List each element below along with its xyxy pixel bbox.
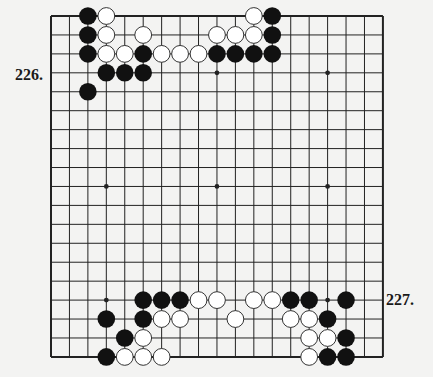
star-point [215, 70, 220, 75]
black-stone [337, 329, 355, 347]
white-stone [116, 45, 133, 62]
white-stone [153, 311, 170, 328]
white-stone [227, 27, 244, 44]
black-stone [171, 291, 189, 309]
white-stone [319, 330, 336, 347]
star-point [325, 298, 330, 303]
black-stone [300, 291, 318, 309]
star-point [215, 184, 220, 189]
white-stone [135, 349, 152, 366]
white-stone [301, 330, 318, 347]
go-board [0, 0, 433, 377]
black-stone [79, 83, 97, 101]
white-stone [135, 330, 152, 347]
black-stone [98, 348, 116, 366]
black-stone [337, 348, 355, 366]
black-stone [263, 45, 281, 63]
black-stone [153, 291, 171, 309]
black-stone [116, 329, 134, 347]
white-stone [135, 27, 152, 44]
white-stone [245, 8, 262, 25]
white-stone [264, 292, 281, 309]
black-stone [134, 291, 152, 309]
black-stone [79, 7, 97, 25]
black-stone [319, 348, 337, 366]
white-stone [227, 311, 244, 328]
black-stone [79, 26, 97, 44]
black-stone [227, 45, 245, 63]
black-stone [337, 291, 355, 309]
caption-clipped [130, 370, 310, 377]
white-stone [301, 349, 318, 366]
white-stone [153, 45, 170, 62]
white-stone [209, 292, 226, 309]
black-stone [79, 45, 97, 63]
white-stone [190, 45, 207, 62]
white-stone [98, 8, 115, 25]
white-stone [153, 349, 170, 366]
black-stone [134, 45, 152, 63]
black-stone [282, 291, 300, 309]
white-stone [172, 311, 189, 328]
white-stone [245, 27, 262, 44]
star-point [104, 184, 109, 189]
black-stone [98, 310, 116, 328]
white-stone [98, 45, 115, 62]
star-point [325, 70, 330, 75]
white-stone [209, 27, 226, 44]
black-stone [245, 45, 263, 63]
black-stone [263, 26, 281, 44]
white-stone [190, 292, 207, 309]
white-stone [301, 311, 318, 328]
white-stone [116, 349, 133, 366]
white-stone [245, 292, 262, 309]
white-stone [282, 311, 299, 328]
black-stone [116, 64, 134, 82]
black-stone [134, 64, 152, 82]
black-stone [263, 7, 281, 25]
black-stone [134, 310, 152, 328]
white-stone [98, 27, 115, 44]
star-point [325, 184, 330, 189]
black-stone [208, 45, 226, 63]
star-point [104, 298, 109, 303]
black-stone [98, 64, 116, 82]
black-stone [319, 310, 337, 328]
white-stone [172, 45, 189, 62]
